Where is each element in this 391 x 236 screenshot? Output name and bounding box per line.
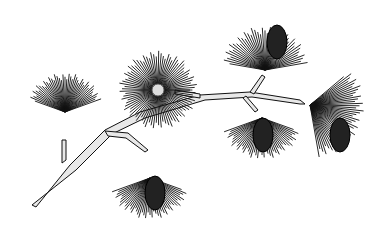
right-tuft-cone bbox=[330, 118, 350, 152]
pine-branch-illustration bbox=[0, 0, 391, 236]
lower-mid-tuft-cone bbox=[253, 118, 273, 152]
center-bud bbox=[152, 84, 164, 96]
lower-left-tuft-cone bbox=[145, 176, 165, 210]
left-tuft bbox=[30, 74, 101, 112]
top-right-tuft bbox=[224, 27, 308, 70]
needle-tufts bbox=[30, 27, 363, 218]
top-right-tuft-cone bbox=[267, 25, 287, 59]
